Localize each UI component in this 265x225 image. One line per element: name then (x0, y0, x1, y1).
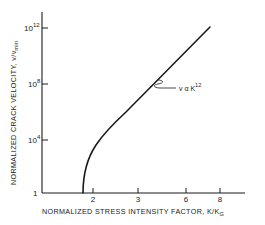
annotation-leader (154, 80, 176, 88)
y-axis-label: NORMALIZED CRACK VELOCITY, v/vmin (9, 41, 19, 186)
y-tick-label-1: 1 (33, 189, 38, 198)
annotation-label: v α K12 (179, 82, 201, 92)
y-axis-label-text: NORMALIZED CRACK VELOCITY, v/v (9, 50, 18, 185)
y-tick-label-4: 104 (28, 134, 41, 145)
y-ticks (42, 28, 48, 140)
x-tick-labels: 2 3 6 8 (91, 195, 223, 204)
annotation-text: v α K (179, 85, 195, 92)
x-tick-label-3: 3 (136, 195, 141, 204)
y-tick-labels: 1012 108 104 1 (24, 22, 41, 198)
crack-velocity-chart: 1012 108 104 1 2 3 6 8 v α K12 NORMALIZE… (0, 0, 265, 225)
y-tick-exp: 4 (37, 134, 41, 140)
annotation-exponent: 12 (195, 82, 201, 88)
y-tick-exp: 8 (37, 78, 41, 84)
x-tick-label-8: 8 (218, 195, 223, 204)
y-tick-label-12: 1012 (24, 22, 40, 33)
x-axis-label-subscript: G (220, 211, 225, 217)
x-ticks (93, 188, 220, 193)
data-series-curve (83, 27, 210, 193)
x-tick-label-2: 2 (91, 195, 96, 204)
x-axis-label: NORMALIZED STRESS INTENSITY FACTOR, K/KG (42, 207, 224, 217)
y-tick-label-8: 108 (28, 78, 41, 89)
y-tick-exp: 12 (33, 22, 40, 28)
x-axis-label-text: NORMALIZED STRESS INTENSITY FACTOR, K/K (42, 207, 220, 216)
y-axis-label-subscript: min (13, 41, 19, 51)
x-tick-label-6: 6 (184, 195, 189, 204)
